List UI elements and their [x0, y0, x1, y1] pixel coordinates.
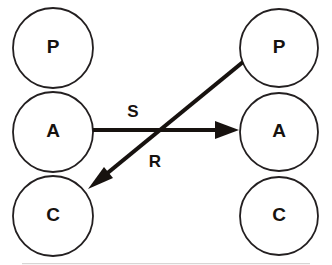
node-left-abstraction[interactable]: A	[13, 92, 93, 172]
edge-send-label: S	[127, 102, 138, 121]
edge-send-arrowhead	[215, 121, 239, 139]
edge-receive-label: R	[149, 152, 161, 171]
node-right-control[interactable]: C	[240, 177, 318, 255]
node-right-abstraction[interactable]: A	[240, 93, 318, 171]
node-left-presentation[interactable]: P	[13, 8, 93, 88]
diagram-canvas: P A C P A C	[0, 0, 332, 265]
node-label: C	[46, 204, 60, 225]
pac-diagram: P A C P A C	[0, 0, 332, 265]
node-right-presentation[interactable]: P	[240, 9, 318, 87]
node-label: A	[46, 120, 60, 141]
scan-artifact-line	[22, 263, 310, 264]
right-agent-stack: P A C	[240, 9, 318, 255]
edge-receive-line	[99, 62, 243, 180]
node-label: P	[47, 36, 60, 57]
node-left-control[interactable]: C	[13, 176, 93, 256]
edge-send-arrow[interactable]: S	[93, 102, 239, 139]
node-label: C	[272, 204, 286, 225]
left-agent-stack: P A C	[13, 8, 93, 256]
node-label: P	[273, 36, 286, 57]
node-label: A	[272, 120, 286, 141]
